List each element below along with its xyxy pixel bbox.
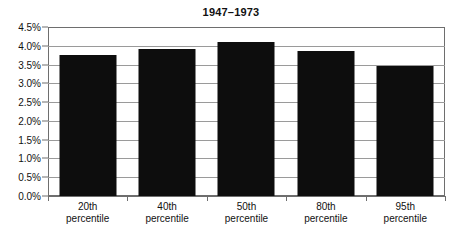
- bar: [377, 66, 434, 196]
- x-axis-label-line: percentile: [366, 213, 445, 225]
- x-axis-label-line: percentile: [48, 213, 127, 225]
- x-axis-label-line: 80th: [286, 201, 365, 213]
- y-axis-label: 4.5%: [1, 22, 41, 33]
- y-axis-label: 1.5%: [1, 135, 41, 146]
- x-axis-tick: [127, 196, 128, 201]
- y-axis-label: 3.0%: [1, 78, 41, 89]
- bar-slot: [207, 27, 286, 196]
- y-axis-label: 0.5%: [1, 172, 41, 183]
- bar-slot: [366, 27, 445, 196]
- gridline: [48, 196, 445, 197]
- x-axis-label-line: percentile: [207, 213, 286, 225]
- x-axis-tick: [48, 196, 49, 201]
- y-axis-label: 2.5%: [1, 97, 41, 108]
- x-axis-tick: [445, 196, 446, 201]
- chart-title: 1947–1973: [0, 6, 462, 18]
- x-axis-label-line: 50th: [207, 201, 286, 213]
- bar: [139, 49, 196, 196]
- x-axis-label: 40thpercentile: [127, 201, 206, 225]
- x-axis-label: 50thpercentile: [207, 201, 286, 225]
- x-axis-label-line: percentile: [127, 213, 206, 225]
- x-axis-label-line: percentile: [286, 213, 365, 225]
- bar-slot: [48, 27, 127, 196]
- x-axis-label-line: 40th: [127, 201, 206, 213]
- x-axis-tick: [366, 196, 367, 201]
- y-axis-label: 3.5%: [1, 60, 41, 71]
- bar-chart: 1947–1973 4.5%4.0%3.5%3.0%2.5%2.0%1.5%1.…: [0, 0, 462, 242]
- x-axis-label: 95thpercentile: [366, 201, 445, 225]
- bar-series: [48, 27, 445, 196]
- y-axis-label: 4.0%: [1, 41, 41, 52]
- x-axis-label: 20thpercentile: [48, 201, 127, 225]
- x-axis-label-line: 95th: [366, 201, 445, 213]
- x-axis-tick: [286, 196, 287, 201]
- bar-slot: [127, 27, 206, 196]
- y-axis-label: 2.0%: [1, 116, 41, 127]
- x-axis-label-line: 20th: [48, 201, 127, 213]
- bar: [218, 42, 275, 196]
- y-axis-label: 1.0%: [1, 153, 41, 164]
- bar-slot: [286, 27, 365, 196]
- bar: [59, 55, 116, 196]
- y-axis-label: 0.0%: [1, 191, 41, 202]
- x-axis-label: 80thpercentile: [286, 201, 365, 225]
- x-axis-tick: [207, 196, 208, 201]
- bar: [297, 51, 354, 196]
